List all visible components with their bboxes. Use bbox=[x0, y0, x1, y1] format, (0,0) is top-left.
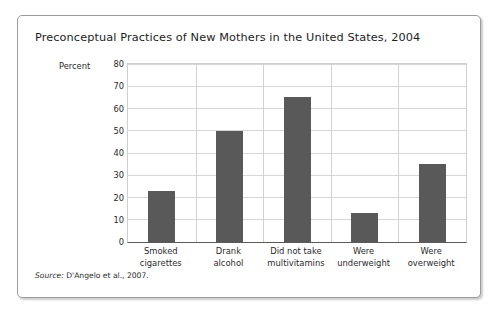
category-separator-line bbox=[331, 64, 332, 242]
y-axis-tick-label: 80 bbox=[113, 59, 124, 69]
category-label: Did not takemultivitamins bbox=[262, 246, 330, 269]
bar bbox=[419, 164, 446, 242]
source-note: Source: D'Angelo et al., 2007. bbox=[35, 271, 149, 280]
figure-frame: Preconceptual Practices of New Mothers i… bbox=[17, 15, 481, 298]
category-label: Drankalcohol bbox=[195, 246, 263, 269]
gridline-horizontal bbox=[128, 86, 466, 87]
bar bbox=[216, 131, 243, 242]
category-label-line: overweight bbox=[397, 258, 465, 270]
bar bbox=[284, 97, 311, 242]
category-label-line: alcohol bbox=[195, 258, 263, 270]
y-axis-tick-label: 10 bbox=[113, 215, 124, 225]
y-axis-tick-label: 50 bbox=[113, 126, 124, 136]
y-axis-tick-label: 30 bbox=[113, 170, 124, 180]
category-label: Smokedcigarettes bbox=[127, 246, 195, 269]
category-label: Wereunderweight bbox=[330, 246, 398, 269]
y-axis-tick-label: 0 bbox=[119, 237, 124, 247]
y-axis-title: Percent bbox=[59, 61, 90, 71]
gridline-horizontal bbox=[128, 64, 466, 65]
category-label-line: Did not take bbox=[262, 246, 330, 258]
category-label-line: underweight bbox=[330, 258, 398, 270]
source-value: D'Angelo et al., 2007. bbox=[64, 271, 149, 280]
bar bbox=[148, 191, 175, 242]
category-label-line: Smoked bbox=[127, 246, 195, 258]
plot-area: 01020304050607080 bbox=[127, 63, 467, 243]
bar bbox=[351, 213, 378, 242]
category-separator-line bbox=[196, 64, 197, 242]
y-axis-tick-label: 20 bbox=[113, 193, 124, 203]
y-axis-tick-label: 70 bbox=[113, 81, 124, 91]
category-separator-line bbox=[398, 64, 399, 242]
y-axis-tick-label: 60 bbox=[113, 104, 124, 114]
category-label-line: cigarettes bbox=[127, 258, 195, 270]
category-label-line: multivitamins bbox=[262, 258, 330, 270]
source-label: Source: bbox=[35, 271, 64, 280]
category-separator-line bbox=[263, 64, 264, 242]
category-label-line: Were bbox=[397, 246, 465, 258]
category-label-line: Drank bbox=[195, 246, 263, 258]
chart-title: Preconceptual Practices of New Mothers i… bbox=[35, 31, 455, 44]
y-axis-tick-label: 40 bbox=[113, 148, 124, 158]
category-label: Wereoverweight bbox=[397, 246, 465, 269]
category-label-line: Were bbox=[330, 246, 398, 258]
